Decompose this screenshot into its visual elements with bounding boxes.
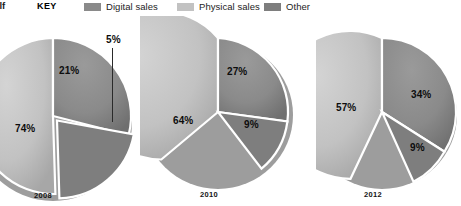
clipped-caption-text: elf xyxy=(0,0,5,11)
slice-label-digital-sales: 27% xyxy=(227,66,247,77)
slice-label-digital-sales: 21% xyxy=(59,65,79,76)
pie-year-label: 2008 xyxy=(34,191,52,200)
slice-label-physical-sales: 74% xyxy=(15,123,35,134)
leader-line-other xyxy=(112,48,113,122)
legend-item-label: Other xyxy=(286,1,310,12)
pie-chart-2010: 27% 64% 9% 2010 xyxy=(140,16,300,206)
legend-swatch-icon xyxy=(84,3,101,11)
slice-label-digital-sales: 34% xyxy=(411,89,431,100)
slice-label-physical-sales: 64% xyxy=(173,115,193,126)
pie-chart-group: 21% 74% 5% 2008 xyxy=(0,16,451,206)
legend-item-other: Other xyxy=(264,1,310,12)
pie-slice-digital-sales xyxy=(218,38,288,122)
legend-swatch-icon xyxy=(264,3,281,11)
pie-year-label: 2012 xyxy=(364,190,382,199)
slice-label-other: 5% xyxy=(106,34,121,45)
pie-chart-2012: 34% 57% 9% 2012 xyxy=(316,16,461,206)
chart-legend: elf KEY Digital sales Physical sales Oth… xyxy=(0,0,451,16)
slice-label-physical-sales: 57% xyxy=(336,102,356,113)
legend-swatch-icon xyxy=(177,3,194,11)
key-label: KEY xyxy=(37,1,57,11)
legend-item-label: Digital sales xyxy=(106,1,158,12)
pie-chart-2008: 21% 74% 5% 2008 xyxy=(0,16,153,206)
pie-slice-physical-sales xyxy=(0,38,55,194)
pie-slice-other xyxy=(57,121,134,199)
pie-graphic xyxy=(0,16,153,206)
slice-label-other: 9% xyxy=(244,119,259,130)
legend-item-label: Physical sales xyxy=(199,1,260,12)
pie-graphic xyxy=(140,16,300,206)
slice-label-other: 9% xyxy=(410,142,425,153)
pie-year-label: 2010 xyxy=(200,190,218,199)
legend-item-digital-sales: Digital sales xyxy=(84,1,158,12)
legend-item-physical-sales: Physical sales xyxy=(177,1,260,12)
